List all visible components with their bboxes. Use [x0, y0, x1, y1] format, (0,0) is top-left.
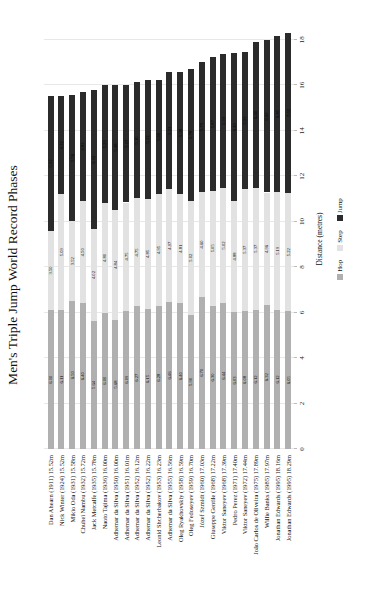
jump-segment: 5.22 [145, 80, 151, 199]
hop-segment: 6.44 [220, 303, 226, 449]
step-swatch-icon [337, 245, 343, 251]
legend-label-step: Step [336, 230, 344, 242]
hop-value-label: 6.10 [48, 376, 53, 384]
step-segment: 4.75 [123, 203, 129, 311]
hop-segment: 6.09 [123, 311, 129, 449]
jump-value-label: 5.38 [178, 129, 183, 137]
step-segment: 4.02 [91, 229, 97, 320]
step-segment: 4.95 [156, 194, 162, 307]
jump-value-label: 6.49 [232, 123, 237, 131]
hop-segment: 6.12 [274, 310, 280, 449]
x-tick-mark [294, 221, 297, 222]
hop-value-label: 6.44 [221, 372, 226, 380]
jump-segment: 5.99 [242, 52, 248, 188]
jump-swatch-icon [337, 215, 343, 221]
jump-segment: 5.48 [112, 85, 118, 210]
hop-value-label: 6.46 [167, 372, 172, 380]
hop-value-label: 6.09 [124, 376, 129, 384]
hop-segment: 6.08 [242, 311, 248, 449]
jump-segment: 5.17 [123, 85, 129, 203]
hop-segment: 6.27 [134, 306, 140, 449]
hop-segment: 6.11 [58, 310, 64, 449]
jump-segment: 4.82 [80, 92, 86, 202]
step-segment: 4.81 [177, 194, 183, 303]
athlete-label: Naoto Tajima (1936) 16.00m [101, 455, 108, 601]
legend-label-jump: Jump [336, 198, 344, 213]
hop-value-label: 6.05 [286, 376, 291, 384]
x-tick-label: 0 [298, 439, 306, 459]
step-value-label: 5.22 [286, 248, 291, 256]
hop-swatch-icon [337, 274, 343, 280]
step-value-label: 4.81 [178, 245, 183, 253]
hop-value-label: 6.00 [102, 377, 107, 385]
step-segment: 5.09 [58, 194, 64, 310]
hop-value-label: 6.40 [178, 372, 183, 380]
step-value-label: 3.50 [48, 266, 53, 274]
step-value-label: 4.75 [134, 248, 139, 256]
jump-value-label: 5.17 [124, 140, 129, 148]
step-value-label: 4.75 [124, 253, 129, 261]
step-value-label: 5.19 [275, 247, 280, 255]
athlete-label: Adhemar da Silva (1955) 16.56m [166, 455, 173, 601]
step-value-label: 5.37 [253, 245, 258, 253]
x-tick-label: 12 [298, 166, 306, 186]
x-tick-label: 6 [298, 303, 306, 323]
hop-segment: 6.28 [156, 306, 162, 449]
hop-value-label: 6.32 [264, 373, 269, 381]
jump-value-label: 5.93 [221, 117, 226, 125]
step-value-label: 4.80 [102, 254, 107, 262]
step-value-label: 5.05 [210, 244, 215, 252]
jump-segment: 5.78 [188, 69, 194, 200]
jump-segment: 5.73 [199, 62, 205, 192]
athlete-label: Giuseppe Gentile (1968) 17.22m [209, 455, 216, 601]
step-value-label: 5.37 [242, 246, 247, 254]
step-segment: 5.02 [188, 201, 194, 315]
step-segment: 3.50 [48, 231, 54, 311]
jump-value-label: 5.78 [188, 131, 193, 139]
jump-value-label: 5.48 [113, 143, 118, 151]
step-value-label: 4.88 [232, 252, 237, 260]
jump-value-label: 5.99 [242, 117, 247, 125]
jump-value-label: 4.32 [59, 141, 64, 149]
jump-value-label: 7.02 [286, 109, 291, 117]
jump-value-label: 5.73 [199, 123, 204, 131]
step-value-label: 4.84 [113, 261, 118, 269]
step-segment: 4.96 [264, 193, 270, 306]
athlete-label: Jonathan Edwards (1995) 18.29m [285, 455, 292, 601]
jump-value-label: 5.13 [167, 127, 172, 135]
x-tick-label: 18 [298, 30, 306, 50]
hop-value-label: 5.64 [91, 381, 96, 389]
hop-value-label: 6.40 [80, 372, 85, 380]
step-segment: 5.19 [274, 192, 280, 310]
x-tick-mark [294, 84, 297, 85]
x-tick-label: 2 [298, 394, 306, 414]
step-value-label: 4.85 [145, 250, 150, 258]
athlete-label: Jack Metcalfe (1935) 15.78m [90, 455, 97, 601]
hop-value-label: 6.70 [199, 369, 204, 377]
step-value-label: 4.60 [199, 240, 204, 248]
hop-value-label: 6.30 [210, 373, 215, 381]
hop-value-label: 6.27 [134, 374, 139, 382]
hop-segment: 6.50 [69, 301, 75, 449]
athlete-label: Willie Banks (1985) 17.97m [263, 455, 270, 601]
rotated-chart-canvas: Men's Triple Jump World Record Phases 02… [0, 0, 367, 605]
jump-segment: 5.13 [166, 72, 172, 189]
athlete-label: Chuhei Nambu (1932) 15.72m [79, 455, 86, 601]
hop-value-label: 6.12 [253, 375, 258, 383]
athlete-label: Viktor Saneyev (1968) 17.39m [220, 455, 227, 601]
step-value-label: 3.52 [70, 257, 75, 265]
hop-segment: 6.12 [253, 310, 259, 449]
x-tick-label: 8 [298, 257, 306, 277]
athlete-label: Adhemar da Silva (1951) 16.01m [123, 455, 130, 601]
jump-value-label: 6.85 [275, 110, 280, 118]
x-axis-label: Distance (metres) [315, 29, 324, 449]
hop-value-label: 6.28 [156, 374, 161, 382]
hop-value-label: 6.08 [242, 376, 247, 384]
jump-segment: 4.32 [58, 96, 64, 194]
jump-value-label: 6.69 [264, 112, 269, 120]
legend-item-jump: Jump [336, 198, 344, 221]
step-segment: 4.60 [199, 192, 205, 297]
x-tick-mark [294, 357, 297, 358]
step-value-label: 4.50 [80, 248, 85, 256]
step-segment: 4.97 [166, 189, 172, 302]
